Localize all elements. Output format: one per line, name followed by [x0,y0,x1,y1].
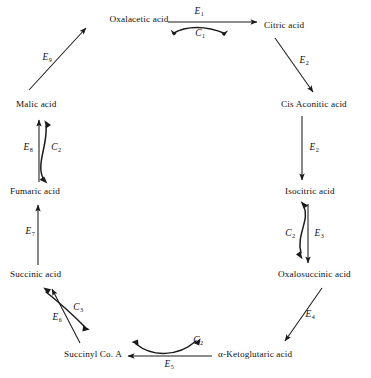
node-oxalosuccinic-acid: Oxalosuccinic acid [278,270,351,279]
node-cis-aconitic-acid: Cis Aconitic acid [281,100,347,109]
cofactor-subscript: 1 [202,32,205,39]
edge-oxalosuccinic-to-ketoglutaric [285,288,322,341]
cofactor-letter: C [285,228,291,238]
enzyme-letter: E [24,142,30,152]
krebs-cycle-diagram: Oxalacetic acid Citric acid Cis Aconitic… [0,0,371,378]
enzyme-subscript: 5 [171,363,174,370]
enzyme-subscript: 4 [312,313,315,320]
cofactor-subscript: 2 [292,232,295,239]
cofactor-arc [41,126,46,178]
enzyme-subscript: 6 [59,316,62,323]
enzyme-label-e2: E2 [310,143,319,152]
enzyme-label-e8: E8 [24,143,33,152]
cofactor-label-c1: C1 [195,29,204,38]
node-alpha-ketoglutaric-acid: α-Ketoglutaric acid [218,350,292,359]
enzyme-letter: E [300,55,306,65]
cofactor-label-c3: C3 [73,303,82,312]
node-malic-acid: Malic acid [16,100,57,109]
enzyme-subscript: 3 [321,232,324,239]
cofactor-letter: C [193,335,199,345]
enzyme-subscript: 2 [316,146,319,153]
enzyme-label-e6: E6 [53,313,62,322]
enzyme-subscript: 2 [306,59,309,66]
enzyme-letter: E [315,228,321,238]
cofactor-label-c2-left: C2 [51,143,60,152]
cofactor-subscript: 2 [200,339,203,346]
enzyme-subscript: 7 [32,230,35,237]
cofactor-label-c2-bottom: C2 [193,336,202,345]
enzyme-letter: E [310,142,316,152]
cofactor-arrowhead-bottom [39,177,47,184]
cofactor-arc [136,341,196,353]
enzyme-letter: E [53,312,59,322]
enzyme-label-e7: E7 [26,227,35,236]
enzyme-letter: E [306,309,312,319]
edge-malic-to-oxalacetic [29,28,86,90]
node-succinyl-coa: Succinyl Co. A [64,350,122,359]
node-isocitric-acid: Isocitric acid [285,187,335,196]
cofactor-letter: C [51,142,57,152]
cofactor-subscript: 3 [80,306,83,313]
enzyme-label-e2-diagonal: E2 [300,56,309,65]
cofactor-label-c2-right: C2 [285,229,294,238]
enzyme-label-e9: E9 [43,53,52,62]
cofactor-arc [300,207,306,253]
cofactor-subscript: 2 [58,146,61,153]
edge-fumaric-to-malic [39,120,51,184]
edge-oxalacetic-to-citric [168,22,257,36]
cofactor-arrowhead-left [132,340,139,346]
enzyme-subscript: 8 [30,146,33,153]
enzyme-letter: E [26,226,32,236]
edge-isocitric-to-oxalosuccinic [296,201,308,263]
enzyme-letter: E [165,359,171,369]
arrow-line [29,28,86,90]
node-fumaric-acid: Fumaric acid [10,187,60,196]
cofactor-arrowhead-bottom [82,325,89,331]
node-oxalacetic-acid: Oxalacetic acid [109,15,168,24]
cofactor-letter: C [73,302,79,312]
enzyme-label-e3: E3 [315,229,324,238]
arrow-line [285,288,322,341]
node-citric-acid: Citric acid [264,21,304,30]
enzyme-label-e5: E5 [165,360,174,369]
cofactor-arrowhead-top [301,201,309,208]
enzyme-subscript: 1 [201,10,204,17]
edge-succinyl-to-succinic [43,287,90,343]
enzyme-letter: E [43,52,49,62]
enzyme-letter: E [195,6,201,16]
node-succinic-acid: Succinic acid [10,270,61,279]
cofactor-arrowhead-bottom [296,251,303,259]
enzyme-label-e1: E1 [195,7,204,16]
enzyme-subscript: 9 [49,56,52,63]
enzyme-label-e4: E4 [306,310,315,319]
cofactor-letter: C [195,28,201,38]
